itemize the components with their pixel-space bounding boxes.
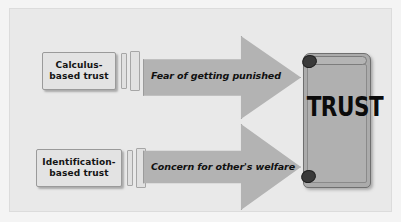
source-box-calculus-line1: Calculus- — [56, 60, 103, 70]
diagram-panel: Calculus- based trust Fear of getting pu… — [9, 8, 392, 212]
trust-scroll: TRUST — [303, 53, 371, 188]
diagram-canvas: Calculus- based trust Fear of getting pu… — [0, 0, 401, 222]
source-box-identification-line2: based trust — [49, 168, 108, 178]
scroll-body — [307, 64, 367, 183]
connector-bar-identification-1 — [127, 150, 133, 186]
source-box-identification-line1: Identification- — [42, 157, 115, 167]
source-box-calculus-based-trust: Calculus- based trust — [42, 52, 116, 90]
source-box-identification-label: Identification- based trust — [42, 157, 115, 179]
source-box-calculus-label: Calculus- based trust — [49, 60, 108, 82]
trust-label: TRUST — [307, 94, 368, 120]
arrow-fear-label: Fear of getting punished — [151, 70, 281, 81]
arrow-concern-label: Concern for other's welfare — [151, 161, 295, 172]
connector-bar-calculus-2 — [130, 51, 140, 91]
connector-bar-calculus-1 — [121, 53, 127, 89]
source-box-calculus-line2: based trust — [49, 71, 108, 81]
source-box-identification-based-trust: Identification- based trust — [36, 149, 122, 187]
